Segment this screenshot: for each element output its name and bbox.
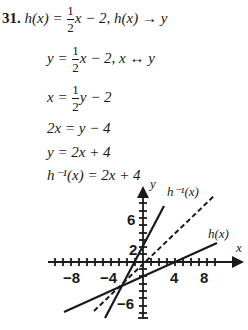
h-label: h(x) xyxy=(208,226,229,241)
x-tick-8: 8 xyxy=(200,269,208,286)
x-tick-neg8: −8 xyxy=(63,269,80,286)
y-tick-2: 2 xyxy=(129,241,137,258)
x-axis-label: x xyxy=(235,240,242,255)
y-tick-6: 6 xyxy=(127,211,135,228)
x-axis-arrow-icon xyxy=(232,256,244,268)
graph: −8 −4 4 8 6 2 −6 y x h⁻¹(x) h(x) xyxy=(0,0,248,330)
x-tick-4: 4 xyxy=(170,269,179,286)
h-inverse-label: h⁻¹(x) xyxy=(167,184,199,199)
x-tick-neg4: −4 xyxy=(100,269,118,286)
y-axis-label: y xyxy=(148,176,156,191)
y-axis-arrow-icon xyxy=(137,186,149,198)
y-tick-neg6: −6 xyxy=(117,295,134,312)
x-axis xyxy=(48,256,244,268)
